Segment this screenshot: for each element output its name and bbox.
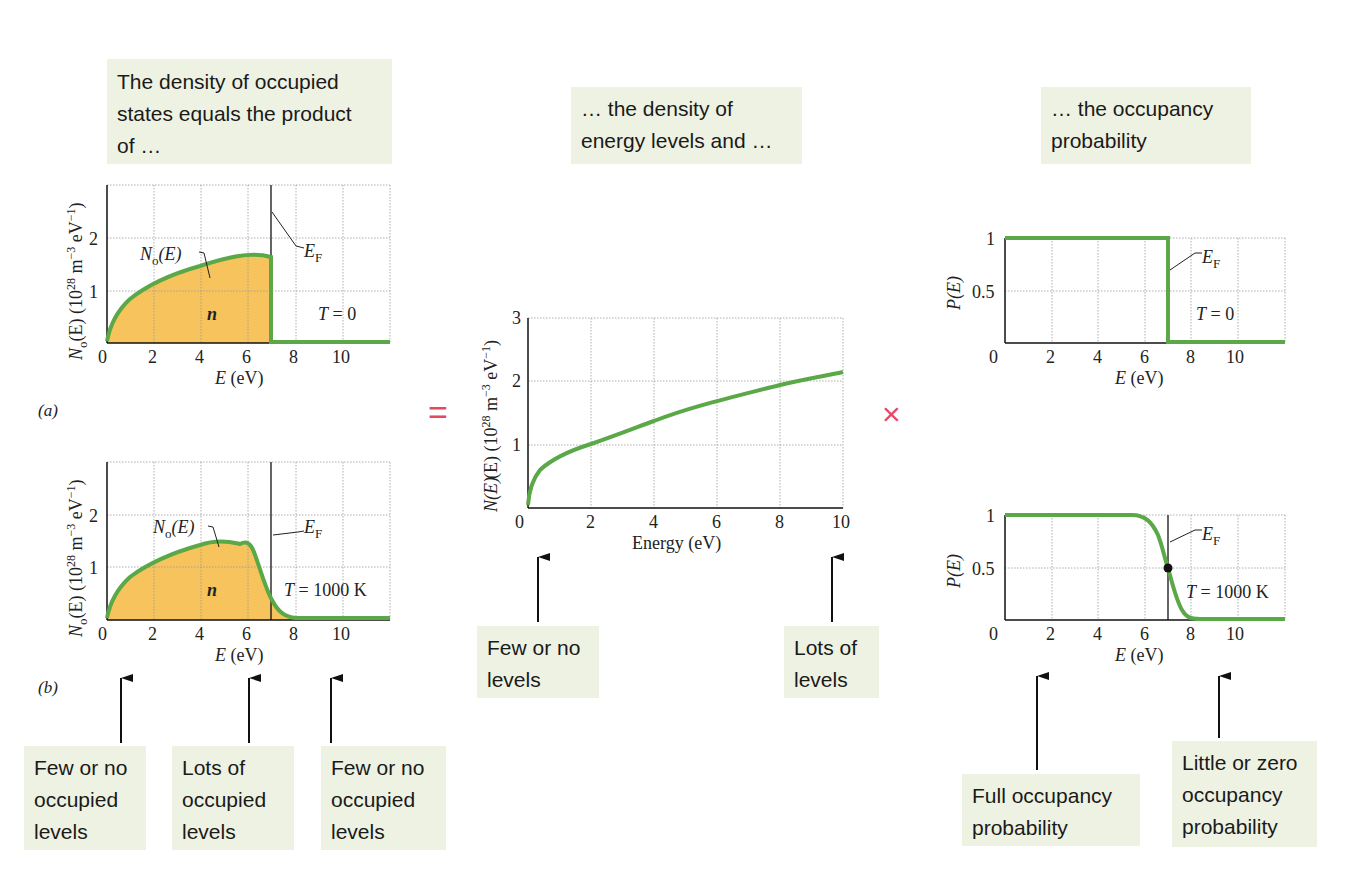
svg-text:6: 6 — [1140, 624, 1149, 644]
svg-text:6: 6 — [1140, 347, 1149, 367]
svg-text:2: 2 — [148, 347, 157, 367]
svg-text:10: 10 — [832, 512, 850, 532]
y-axis-label: P(E) — [944, 554, 965, 589]
svg-text:8: 8 — [289, 624, 298, 644]
svg-text:1: 1 — [89, 282, 98, 302]
svg-text:2: 2 — [89, 506, 98, 526]
svg-text:0: 0 — [98, 624, 107, 644]
x-ticks: 0 2 4 6 8 10 — [98, 347, 350, 367]
x-ticks: 0 2 4 6 8 10 — [989, 347, 1244, 367]
svg-text:4: 4 — [1093, 347, 1102, 367]
svg-text:2: 2 — [148, 624, 157, 644]
svg-text:4: 4 — [649, 512, 658, 532]
svg-text:0: 0 — [98, 347, 107, 367]
chart-occupied-states-T1000: No(E) EF n T = 1000 K 0 2 4 6 8 10 1 2 E… — [64, 462, 390, 666]
svg-text:1: 1 — [986, 229, 995, 249]
x-axis-label: E (eV) — [214, 368, 263, 389]
grid — [528, 318, 843, 508]
n-label: n — [207, 304, 217, 324]
x-ticks: 0 2 4 6 8 10 — [515, 512, 850, 532]
EF-label: EF — [1201, 524, 1220, 548]
svg-text:0.5: 0.5 — [972, 282, 995, 302]
svg-text:6: 6 — [242, 347, 251, 367]
svg-text:3: 3 — [512, 308, 521, 328]
svg-text:0: 0 — [515, 512, 524, 532]
temperature-label: T = 1000 K — [284, 580, 367, 600]
svg-text:8: 8 — [1186, 624, 1195, 644]
svg-text:4: 4 — [195, 624, 204, 644]
NE-curve — [528, 372, 843, 505]
y-ticks: 1 0.5 — [972, 506, 995, 579]
fermi-point-marker — [1164, 564, 1173, 573]
figure-canvas: No(E) EF n T = 0 0 2 4 6 8 10 1 2 E (eV)… — [0, 0, 1350, 882]
svg-text:10: 10 — [332, 347, 350, 367]
svg-text:4: 4 — [195, 347, 204, 367]
chart-density-of-states: 0 2 4 6 8 10 3 2 1 Energy (eV) N(E)(E) (… — [479, 308, 850, 554]
svg-text:0: 0 — [989, 624, 998, 644]
svg-text:6: 6 — [712, 512, 721, 532]
No-curve-label: No(E) — [139, 244, 182, 268]
occupied-area-fill — [107, 542, 296, 620]
y-ticks: 3 2 1 — [512, 308, 521, 455]
EF-label: EF — [1201, 247, 1220, 271]
equals-operator: = — [428, 393, 448, 431]
chart-occupied-states-T0: No(E) EF n T = 0 0 2 4 6 8 10 1 2 E (eV)… — [64, 185, 390, 389]
svg-text:10: 10 — [1226, 624, 1244, 644]
y-axis-label: N(E)(E) (1028 m−3 eV−1) — [479, 340, 502, 513]
svg-text:2: 2 — [1046, 624, 1055, 644]
EF-label: EF — [303, 241, 322, 265]
svg-text:10: 10 — [1226, 347, 1244, 367]
svg-text:2: 2 — [1046, 347, 1055, 367]
svg-text:1: 1 — [89, 558, 98, 578]
svg-text:0: 0 — [989, 347, 998, 367]
svg-text:4: 4 — [1093, 624, 1102, 644]
y-ticks: 1 0.5 — [972, 229, 995, 302]
svg-text:8: 8 — [775, 512, 784, 532]
svg-text:2: 2 — [512, 371, 521, 391]
svg-text:1: 1 — [512, 435, 521, 455]
temperature-label: T = 0 — [1196, 304, 1234, 324]
y-axis-label: No(E) (1028 m−3 eV−1) — [64, 479, 90, 638]
y-ticks: 1 2 — [89, 506, 98, 578]
chart-occupancy-T1000: EF T = 1000 K 0 2 4 6 8 10 1 0.5 E (eV) … — [944, 506, 1285, 666]
svg-text:8: 8 — [289, 347, 298, 367]
x-axis-label: Energy (eV) — [632, 533, 721, 554]
x-ticks: 0 2 4 6 8 10 — [989, 624, 1244, 644]
times-operator: × — [882, 396, 901, 432]
svg-text:2: 2 — [586, 512, 595, 532]
svg-text:2: 2 — [89, 229, 98, 249]
grid — [1005, 515, 1285, 620]
chart-occupancy-T0: EF T = 0 0 2 4 6 8 10 1 0.5 E (eV) P(E) — [944, 229, 1285, 389]
y-ticks: 1 2 — [89, 229, 98, 302]
y-axis-label: No(E) (1028 m−3 eV−1) — [64, 202, 90, 361]
svg-text:0.5: 0.5 — [972, 559, 995, 579]
svg-text:1: 1 — [986, 506, 995, 526]
x-axis-label: E (eV) — [1114, 645, 1163, 666]
svg-text:8: 8 — [1186, 347, 1195, 367]
No-curve-label: No(E) — [152, 517, 195, 541]
x-axis-label: E (eV) — [1114, 368, 1163, 389]
EF-label: EF — [303, 517, 322, 541]
y-axis-label: P(E) — [944, 276, 965, 311]
temperature-label: T = 0 — [318, 304, 356, 324]
svg-text:10: 10 — [332, 624, 350, 644]
temperature-label: T = 1000 K — [1186, 582, 1269, 602]
grid — [1005, 238, 1285, 343]
x-ticks: 0 2 4 6 8 10 — [98, 624, 350, 644]
n-label: n — [207, 580, 217, 600]
x-axis-label: E (eV) — [214, 645, 263, 666]
svg-text:6: 6 — [242, 624, 251, 644]
